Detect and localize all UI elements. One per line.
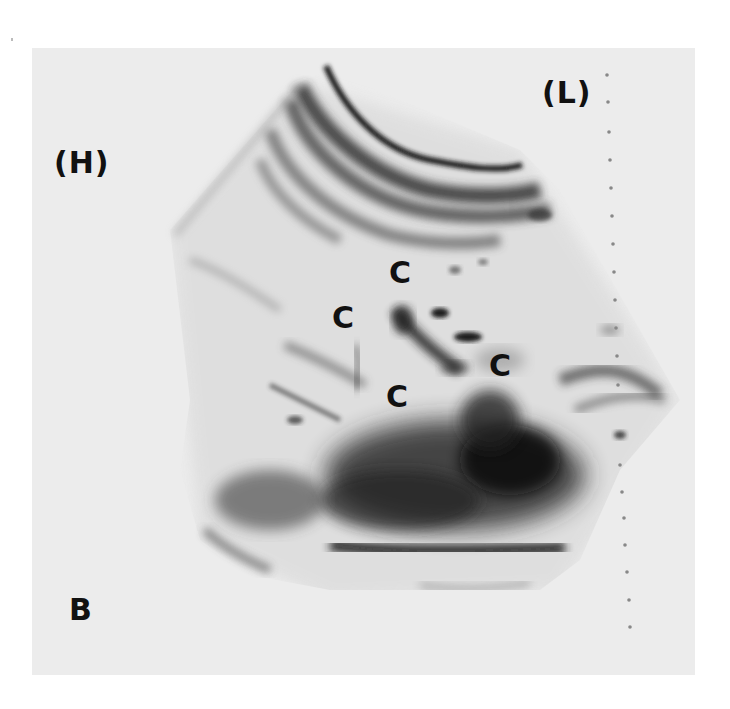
ultrasound-image xyxy=(0,0,730,709)
structure-label-c-bottom: C xyxy=(386,382,408,412)
dust-speck xyxy=(11,38,13,41)
panel-letter: B xyxy=(69,595,92,625)
structure-label-c-right: C xyxy=(489,351,511,381)
structure-label-c-left: C xyxy=(332,303,354,333)
orientation-label-right: (L) xyxy=(542,78,592,108)
structure-label-c-top: C xyxy=(389,258,411,288)
orientation-label-left: (H) xyxy=(54,148,110,178)
